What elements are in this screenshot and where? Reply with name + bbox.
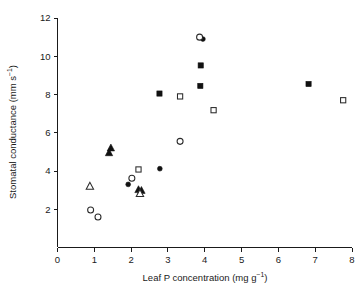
y-axis-ticks: 24681012 (40, 12, 58, 214)
marker-filled-square (306, 81, 311, 86)
y-tick-label: 10 (40, 51, 51, 62)
data-markers (86, 34, 346, 220)
series-open-triangle (86, 182, 143, 196)
scatter-plot: 24681012 012345678 Leaf P concentration … (0, 0, 364, 292)
marker-open-triangle (86, 182, 93, 189)
x-tick-label: 8 (349, 254, 354, 265)
x-tick-label: 2 (128, 254, 133, 265)
marker-filled-square (157, 91, 162, 96)
x-tick-label: 4 (202, 254, 207, 265)
marker-open-circle (177, 138, 183, 144)
x-axis-ticks: 012345678 (55, 248, 355, 265)
marker-open-circle (95, 214, 101, 220)
marker-open-circle (129, 175, 135, 181)
x-tick-label: 3 (165, 254, 170, 265)
marker-open-square (177, 94, 182, 99)
marker-open-square (341, 98, 346, 103)
x-tick-label: 1 (92, 254, 97, 265)
marker-open-square (211, 108, 216, 113)
marker-open-square (136, 167, 141, 172)
figure-container: 24681012 012345678 Leaf P concentration … (0, 0, 364, 292)
y-tick-label: 8 (45, 89, 50, 100)
y-tick-label: 12 (40, 12, 51, 23)
marker-open-circle (88, 207, 94, 213)
x-tick-label: 5 (239, 254, 244, 265)
marker-filled-square (198, 63, 203, 68)
y-axis-title: Stomatal conductance (mm s−1) (6, 65, 18, 199)
y-tick-label: 2 (45, 204, 50, 215)
marker-open-circle (197, 34, 203, 40)
series-filled-square (157, 63, 311, 96)
y-tick-label: 4 (45, 165, 50, 176)
series-open-square (136, 94, 346, 172)
series-filled-circle (126, 37, 206, 187)
marker-filled-square (198, 83, 203, 88)
y-tick-label: 6 (45, 127, 50, 138)
x-tick-label: 6 (276, 254, 281, 265)
x-axis-title: Leaf P concentration (mg g−1) (143, 271, 268, 283)
marker-filled-circle (157, 166, 162, 171)
x-tick-label: 0 (55, 254, 60, 265)
axes (58, 18, 353, 248)
series-open-circle (88, 34, 203, 220)
marker-filled-circle (126, 182, 131, 187)
x-tick-label: 7 (313, 254, 318, 265)
